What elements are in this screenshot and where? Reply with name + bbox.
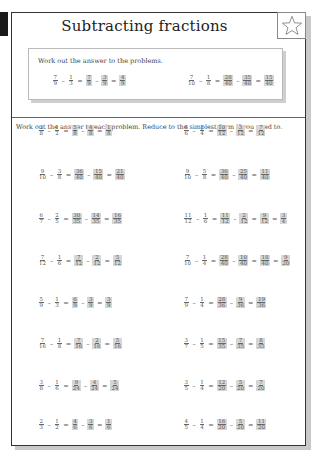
minus-sign: –: [84, 382, 87, 390]
minuend-fraction: 716: [38, 338, 47, 349]
denominator: 5: [185, 425, 189, 430]
answer-fraction: 720: [256, 380, 265, 391]
problem-item: 910–38=3640–1540=2140: [37, 169, 126, 180]
denominator: 12: [237, 131, 244, 136]
equals-sign: =: [248, 127, 253, 135]
denominator: 8: [73, 131, 77, 136]
equals-sign: =: [208, 127, 213, 135]
converted-subtrahend: 48: [87, 125, 94, 136]
denominator: 12: [75, 261, 82, 266]
converted-subtrahend: 520: [236, 419, 245, 430]
denominator: 8: [40, 131, 44, 136]
problem-item: 67–25=3035–1435=1635: [37, 213, 123, 224]
converted-minuend: 58: [72, 125, 79, 136]
minus-sign: –: [48, 421, 51, 429]
subtrahend-fraction: 16: [56, 255, 63, 266]
subtrahend-fraction: 13: [68, 75, 75, 86]
minus-sign: –: [81, 421, 84, 429]
equals-sign: =: [208, 340, 213, 348]
minus-sign: –: [62, 77, 65, 85]
converted-minuend: 716: [74, 338, 83, 349]
problem-item: 712–16=712–212=512: [37, 255, 123, 266]
denominator: 12: [114, 261, 121, 266]
problem-item: 710–14=2840–1040=1840=920: [182, 255, 291, 266]
denominator: 9: [73, 303, 77, 308]
minus-sign: –: [193, 299, 196, 307]
example-box: Work out the answer to the problems. 79–…: [28, 48, 283, 100]
answer-fraction: 524: [110, 380, 119, 391]
equals-sign: =: [97, 421, 102, 429]
denominator: 9: [40, 303, 44, 308]
denominator: 36: [218, 303, 225, 308]
minuend-fraction: 710: [183, 255, 192, 266]
denominator: 12: [39, 261, 46, 266]
page-edge-tab: [0, 12, 8, 36]
minuend-fraction: 1112: [183, 213, 193, 224]
problem-item: 45–14=1620–520=1120: [182, 419, 267, 430]
example-problem: 710–18=2840–3540=1540: [186, 75, 275, 86]
converted-minuend: 1535: [217, 338, 227, 349]
denominator: 24: [91, 386, 98, 391]
subtrahend-fraction: 14: [199, 380, 206, 391]
denominator: 36: [258, 303, 265, 308]
answer-fraction: 34: [280, 213, 287, 224]
denominator: 6: [55, 386, 59, 391]
converted-minuend: 3640: [74, 169, 84, 180]
converted-minuend: 79: [86, 75, 93, 86]
converted-minuend: 69: [72, 297, 79, 308]
minus-sign: –: [230, 340, 233, 348]
denominator: 6: [73, 425, 77, 430]
equals-sign: =: [208, 421, 213, 429]
converted-minuend: 3035: [72, 213, 82, 224]
denominator: 20: [237, 425, 244, 430]
equals-sign: =: [251, 257, 256, 265]
denominator: 2: [55, 425, 59, 430]
equals-sign: =: [66, 171, 71, 179]
denominator: 40: [261, 175, 268, 180]
denominator: 24: [111, 386, 118, 391]
page-title: Subtracting fractions: [12, 17, 277, 35]
denominator: 4: [203, 261, 207, 266]
subtrahend-fraction: 12: [54, 419, 61, 430]
equals-sign: =: [215, 77, 220, 85]
subtrahend-fraction: 16: [54, 380, 61, 391]
minus-sign: –: [48, 127, 51, 135]
converted-subtrahend: 936: [236, 297, 245, 308]
equals-sign: =: [273, 257, 278, 265]
intermediate-answer: 912: [260, 213, 269, 224]
converted-minuend: 712: [74, 255, 83, 266]
denominator: 40: [95, 175, 102, 180]
answer-fraction: 16: [105, 419, 112, 430]
denominator: 35: [73, 219, 80, 224]
minus-sign: –: [48, 299, 51, 307]
equals-sign: =: [63, 127, 68, 135]
minuend-fraction: 38: [38, 380, 45, 391]
minuend-fraction: 712: [38, 255, 47, 266]
minuend-fraction: 910: [183, 169, 192, 180]
denominator: 9: [121, 81, 125, 86]
denominator: 35: [114, 219, 121, 224]
minus-sign: –: [195, 171, 198, 179]
denominator: 6: [107, 425, 111, 430]
denominator: 24: [73, 386, 80, 391]
denominator: 40: [221, 261, 228, 266]
answer-fraction: 1936: [256, 297, 266, 308]
answer-fraction: 835: [256, 338, 265, 349]
equals-sign: =: [104, 340, 109, 348]
minus-sign: –: [193, 421, 196, 429]
subtrahend-fraction: 18: [56, 338, 63, 349]
example-instruction: Work out the answer to the problems.: [38, 57, 163, 65]
problem-item: 38–16=924–424=524: [37, 380, 120, 391]
subtrahend-fraction: 15: [199, 338, 206, 349]
equals-sign: =: [208, 299, 213, 307]
converted-subtrahend: 735: [236, 338, 245, 349]
equals-sign: =: [111, 77, 116, 85]
star-badge: [277, 12, 306, 39]
subtrahend-fraction: 16: [202, 213, 209, 224]
subtrahend-fraction: 25: [54, 213, 61, 224]
minus-sign: –: [236, 77, 239, 85]
denominator: 2: [55, 131, 59, 136]
minuend-fraction: 23: [38, 419, 45, 430]
denominator: 12: [240, 219, 247, 224]
equals-sign: =: [104, 257, 109, 265]
